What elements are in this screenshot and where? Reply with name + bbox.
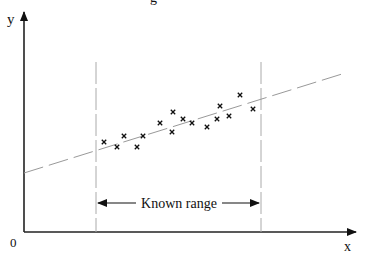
data-point <box>205 125 209 129</box>
data-point <box>227 114 231 118</box>
data-point <box>115 145 119 149</box>
title-fragment: g <box>150 0 157 5</box>
y-axis-label: y <box>7 11 15 27</box>
x-axis-label: x <box>344 239 351 254</box>
fitted-line <box>24 74 342 173</box>
data-point <box>251 107 255 111</box>
data-point <box>238 93 242 97</box>
data-point <box>181 117 185 121</box>
data-point <box>215 117 219 121</box>
data-point <box>190 121 194 125</box>
data-point <box>158 121 162 125</box>
data-point <box>218 104 222 108</box>
known-range-label: Known range <box>141 196 217 211</box>
extrapolation-diagram: g y x 0 Known range <box>0 0 369 261</box>
data-point <box>122 134 126 138</box>
data-point <box>170 130 174 134</box>
scatter-points <box>102 93 255 149</box>
data-point <box>102 140 106 144</box>
origin-label: 0 <box>10 235 17 250</box>
data-point <box>171 110 175 114</box>
data-point <box>135 145 139 149</box>
